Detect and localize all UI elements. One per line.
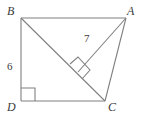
right-angle-at-D-icon	[21, 88, 35, 101]
vertex-label-A: A	[127, 5, 134, 17]
figure-canvas	[0, 0, 143, 121]
vertex-label-D: D	[7, 101, 16, 113]
vertex-label-B: B	[7, 5, 14, 17]
geometry-figure: B A C D 6 7	[0, 0, 143, 121]
measure-label-AE: 7	[84, 33, 90, 44]
measure-label-BD: 6	[7, 61, 13, 72]
vertex-label-C: C	[108, 101, 116, 113]
